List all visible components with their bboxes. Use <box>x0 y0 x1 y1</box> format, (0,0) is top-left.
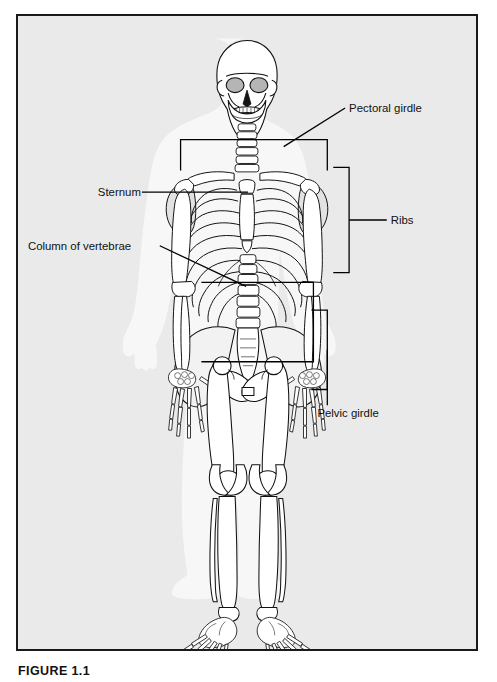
left-foot <box>177 617 237 649</box>
figure-number: FIGURE 1.1 <box>18 664 90 678</box>
label-column-of-vertebrae: Column of vertebrae <box>28 240 131 252</box>
column-of-vertebrae <box>236 255 260 328</box>
label-sternum: Sternum <box>98 186 141 198</box>
right-foot <box>257 617 317 649</box>
label-pectoral-girdle: Pectoral girdle <box>349 102 422 114</box>
ribs-bracket <box>333 167 349 272</box>
pectoral-girdle-leader <box>284 108 345 147</box>
label-pelvic-girdle: Pelvic girdle <box>317 407 378 419</box>
figure-caption: FIGURE 1.1 <box>18 664 478 679</box>
label-ribs: Ribs <box>391 214 414 226</box>
figure-container: Pectoral girdle Sternum Ribs Column of v… <box>0 0 497 682</box>
skeleton-diagram: Pectoral girdle Sternum Ribs Column of v… <box>18 16 476 649</box>
illustration-panel: Pectoral girdle Sternum Ribs Column of v… <box>16 14 478 651</box>
